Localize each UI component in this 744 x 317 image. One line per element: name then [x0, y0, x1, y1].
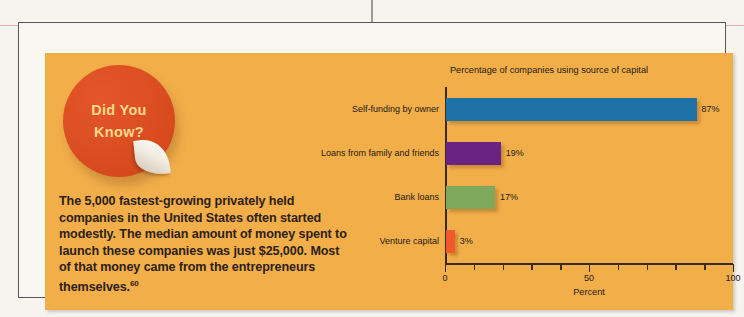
footnote-marker: 60	[130, 279, 139, 288]
x-tick-90	[704, 264, 705, 270]
bar: Loans from family and friends19%	[446, 142, 501, 165]
bar: Bank loans17%	[446, 186, 495, 209]
x-tick-60	[618, 264, 619, 270]
chart-title: Percentage of companies using source of …	[379, 65, 719, 75]
bar: Self-funding by owner87%	[446, 98, 697, 121]
bar: Venture capital3%	[446, 230, 455, 253]
x-tick-40	[560, 264, 561, 270]
x-tick-0	[445, 264, 446, 272]
bar-value-label: 87%	[702, 105, 720, 114]
x-tick-100	[733, 264, 734, 272]
x-tick-30	[531, 264, 532, 270]
chart-plot-area: 050100 Self-funding by owner87%Loans fro…	[445, 87, 733, 257]
bar-category-label: Bank loans	[394, 193, 439, 202]
callout-body-paragraph: The 5,000 fastest-growing privately held…	[59, 194, 347, 294]
figure-frame: Did You Know? The 5,000 fastest-growing …	[18, 22, 726, 298]
x-tick-label-50: 50	[584, 273, 594, 283]
badge-line-1: Did You	[91, 99, 147, 121]
bar-value-label: 3%	[460, 237, 473, 246]
callout-body-text: The 5,000 fastest-growing privately held…	[59, 193, 349, 296]
bar-value-label: 17%	[500, 193, 518, 202]
bar-value-label: 19%	[506, 149, 524, 158]
x-tick-20	[503, 264, 504, 270]
x-tick-80	[675, 264, 676, 270]
x-tick-label-100: 100	[725, 273, 740, 283]
badge-text: Did You Know?	[63, 65, 175, 177]
badge-line-2: Know?	[94, 121, 144, 143]
bar-category-label: Loans from family and friends	[321, 149, 439, 158]
x-tick-70	[647, 264, 648, 270]
figure-panel: Did You Know? The 5,000 fastest-growing …	[45, 53, 733, 310]
bar-chart: Percentage of companies using source of …	[365, 53, 733, 310]
did-you-know-badge: Did You Know?	[63, 65, 183, 187]
did-you-know-callout: Did You Know? The 5,000 fastest-growing …	[45, 53, 365, 310]
bar-category-label: Self-funding by owner	[352, 105, 439, 114]
x-tick-10	[474, 264, 475, 270]
x-axis-title: Percent	[445, 287, 733, 297]
bar-category-label: Venture capital	[379, 237, 439, 246]
x-tick-50	[589, 264, 590, 272]
x-tick-label-0: 0	[442, 273, 447, 283]
